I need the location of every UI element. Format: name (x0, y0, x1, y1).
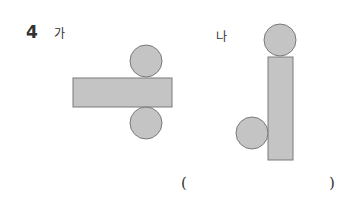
figure-ga-bottom-circle (130, 107, 162, 139)
figure-na-rectangle (268, 57, 293, 160)
figure-ga-cylinder-net (73, 45, 172, 139)
figure-na-cylinder-net (236, 24, 296, 160)
figure-ga-rectangle (73, 78, 172, 107)
figure-na-side-circle (236, 117, 268, 149)
figure-na-top-circle (264, 24, 296, 56)
figure-ga-top-circle (130, 45, 162, 77)
answer-close-paren: ) (329, 174, 335, 192)
answer-open-paren: ( (181, 174, 187, 192)
answer-blank[interactable] (192, 174, 326, 194)
